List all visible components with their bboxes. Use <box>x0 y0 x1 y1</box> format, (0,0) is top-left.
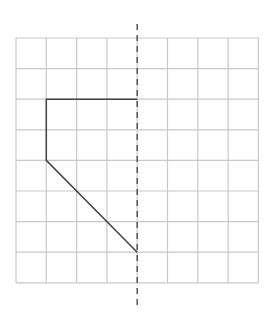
half-shape-outline <box>46 99 137 252</box>
symmetry-diagram <box>0 0 272 323</box>
